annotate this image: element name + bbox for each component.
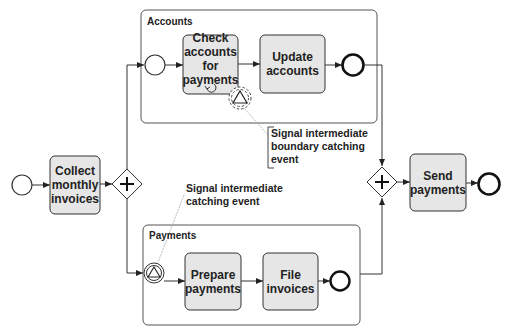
label-line: invoices	[266, 282, 314, 296]
payments-end-event[interactable]	[331, 272, 350, 291]
pool-label-payments: Payments	[149, 230, 196, 241]
label-line: File	[280, 268, 301, 282]
accounts-end-event[interactable]	[343, 55, 364, 76]
annotation-catching-event: Signal intermediate catching event	[186, 182, 283, 208]
accounts-start-event[interactable]	[145, 55, 165, 75]
label-line: Send	[423, 169, 452, 183]
label-line: invoices	[51, 192, 99, 206]
label-line: accounts	[266, 64, 319, 78]
signal-intermediate-catch-event[interactable]	[144, 263, 164, 283]
signal-boundary-event[interactable]	[229, 87, 251, 109]
final-end-event[interactable]	[479, 174, 500, 195]
parallel-gateway-join[interactable]	[367, 167, 397, 197]
annotation-boundary-event: Signal intermediate boundary catching ev…	[271, 127, 368, 166]
task-label-update: Update accounts	[260, 35, 325, 93]
annotation-line: Signal intermediate	[186, 182, 283, 195]
label-line: Update	[272, 50, 313, 64]
task-label-send: Send payments	[410, 154, 466, 211]
label-line: payments	[185, 282, 241, 296]
label-line: Check	[192, 31, 228, 45]
label-line: Collect	[55, 164, 95, 178]
annotation-line: event	[271, 153, 368, 166]
label-line: Prepare	[191, 268, 236, 282]
label-line: monthly	[52, 178, 99, 192]
start-event[interactable]	[12, 175, 32, 195]
annotation-line: catching event	[186, 195, 283, 208]
label-line: accounts	[184, 45, 237, 59]
parallel-gateway-split[interactable]	[112, 169, 142, 199]
label-line: payments	[410, 183, 466, 197]
annotation-line: Signal intermediate	[271, 127, 368, 140]
label-line: payments	[182, 73, 238, 87]
pool-label-accounts: Accounts	[147, 16, 193, 27]
task-label-collect: Collect monthly invoices	[50, 156, 100, 214]
task-label-check: Check accounts for payments	[183, 33, 238, 85]
task-label-prepare: Prepare payments	[185, 253, 241, 310]
label-line: for	[203, 59, 219, 73]
task-label-file: File invoices	[263, 253, 318, 310]
annotation-line: boundary catching	[271, 140, 368, 153]
